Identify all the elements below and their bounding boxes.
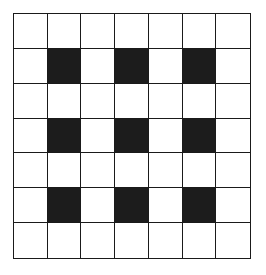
grid-cell-empty bbox=[48, 153, 82, 188]
checker-grid bbox=[13, 13, 251, 259]
grid-cell-filled bbox=[48, 188, 82, 223]
grid-cell-empty bbox=[149, 14, 183, 49]
grid-cell-empty bbox=[149, 49, 183, 84]
grid-cell-empty bbox=[81, 223, 115, 258]
grid-cell-empty bbox=[115, 223, 149, 258]
grid-cell-empty bbox=[216, 223, 250, 258]
grid-cell-empty bbox=[14, 188, 48, 223]
grid-cell-filled bbox=[48, 119, 82, 154]
grid-cell-empty bbox=[149, 84, 183, 119]
grid-cell-empty bbox=[81, 14, 115, 49]
grid-cell-filled bbox=[115, 188, 149, 223]
grid-cell-empty bbox=[149, 153, 183, 188]
grid-cell-empty bbox=[183, 153, 217, 188]
grid-cell-empty bbox=[149, 188, 183, 223]
grid-cell-filled bbox=[183, 119, 217, 154]
grid-cell-empty bbox=[216, 119, 250, 154]
grid-cell-filled bbox=[183, 188, 217, 223]
grid-cell-empty bbox=[216, 153, 250, 188]
grid-cell-empty bbox=[216, 188, 250, 223]
grid-cell-filled bbox=[48, 49, 82, 84]
grid-cell-empty bbox=[216, 49, 250, 84]
grid-cell-empty bbox=[149, 119, 183, 154]
grid-cell-empty bbox=[183, 223, 217, 258]
grid-cell-empty bbox=[216, 84, 250, 119]
grid-cell-empty bbox=[14, 223, 48, 258]
grid-cell-empty bbox=[14, 119, 48, 154]
grid-cell-empty bbox=[81, 84, 115, 119]
grid-cell-empty bbox=[14, 14, 48, 49]
grid-cell-empty bbox=[14, 49, 48, 84]
grid-cell-empty bbox=[48, 14, 82, 49]
grid-cell-empty bbox=[48, 84, 82, 119]
grid-cell-empty bbox=[115, 14, 149, 49]
grid-cell-empty bbox=[115, 153, 149, 188]
grid-cell-empty bbox=[81, 49, 115, 84]
grid-cell-empty bbox=[14, 153, 48, 188]
grid-cell-empty bbox=[216, 14, 250, 49]
grid-cell-empty bbox=[149, 223, 183, 258]
grid-cell-empty bbox=[183, 84, 217, 119]
grid-cell-empty bbox=[14, 84, 48, 119]
grid-cell-empty bbox=[115, 84, 149, 119]
grid-cell-empty bbox=[48, 223, 82, 258]
grid-cell-empty bbox=[81, 188, 115, 223]
grid-cell-empty bbox=[183, 14, 217, 49]
grid-cell-filled bbox=[115, 119, 149, 154]
grid-cell-filled bbox=[115, 49, 149, 84]
grid-cell-filled bbox=[183, 49, 217, 84]
grid-cell-empty bbox=[81, 153, 115, 188]
grid-cell-empty bbox=[81, 119, 115, 154]
